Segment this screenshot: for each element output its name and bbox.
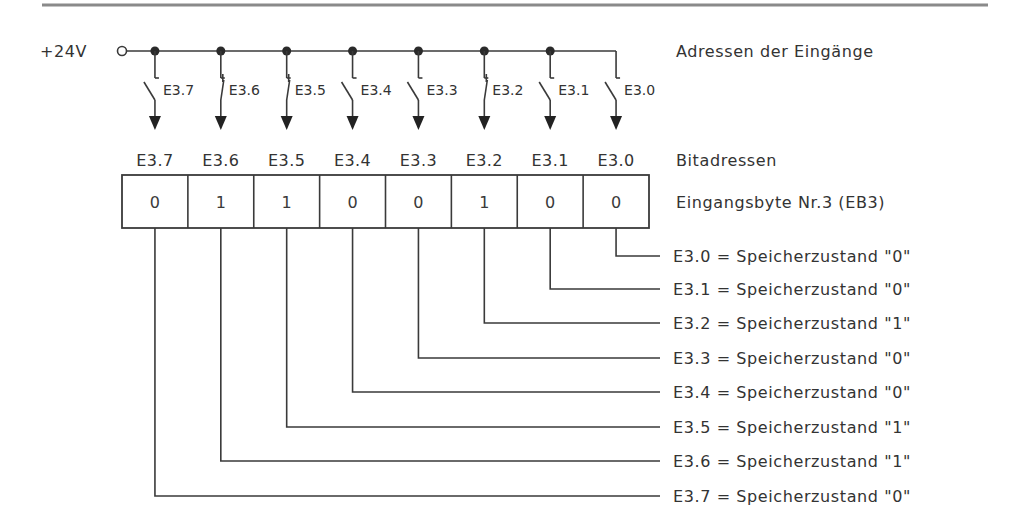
input-addresses-label: Adressen der Eingänge bbox=[676, 42, 874, 61]
bit-state-description: E3.4 = Speicherzustand "0" bbox=[673, 383, 911, 402]
bit-value-cell: 1 bbox=[216, 193, 226, 212]
input-branch-E3-7: E3.7 bbox=[144, 47, 194, 131]
bit-address-label: E3.5 bbox=[268, 151, 305, 170]
input-branch-E3-3: E3.3 bbox=[407, 47, 457, 131]
switch-label: E3.1 bbox=[558, 82, 589, 98]
bit-state-description: E3.3 = Speicherzustand "0" bbox=[673, 349, 911, 368]
switch-label: E3.3 bbox=[426, 82, 457, 98]
arrow-down-icon bbox=[412, 116, 424, 130]
switch-label: E3.6 bbox=[229, 82, 260, 98]
bit-value-cell: 0 bbox=[347, 193, 357, 212]
bit-addresses-label: Bitadressen bbox=[676, 151, 777, 170]
bit-address-label: E3.1 bbox=[532, 151, 569, 170]
bit-state-description: E3.0 = Speicherzustand "0" bbox=[673, 247, 911, 266]
switch-label: E3.7 bbox=[163, 82, 194, 98]
bit-address-label: E3.4 bbox=[334, 151, 371, 170]
bit-address-label: E3.0 bbox=[597, 151, 634, 170]
switch-label: E3.2 bbox=[492, 82, 523, 98]
bit-value-cell: 0 bbox=[611, 193, 621, 212]
switch-label: E3.4 bbox=[361, 82, 392, 98]
input-branch-E3-4: E3.4 bbox=[342, 47, 392, 131]
arrow-down-icon bbox=[610, 116, 622, 130]
bit-address-label: E3.7 bbox=[136, 151, 173, 170]
switch-closed-icon bbox=[221, 80, 224, 100]
input-byte-label: Eingangsbyte Nr.3 (EB3) bbox=[676, 193, 885, 212]
arrow-down-icon bbox=[347, 116, 359, 130]
arrow-down-icon bbox=[215, 116, 227, 130]
input-branch-E3-6: E3.6 bbox=[215, 47, 260, 131]
arrow-down-icon bbox=[149, 116, 161, 130]
switch-open-icon bbox=[342, 82, 353, 100]
bit-state-description: E3.6 = Speicherzustand "1" bbox=[673, 452, 911, 471]
input-branch-E3-1: E3.1 bbox=[539, 47, 589, 131]
switch-closed-icon bbox=[484, 80, 487, 100]
arrow-down-icon bbox=[478, 116, 490, 130]
supply-label: +24V bbox=[40, 42, 87, 61]
switch-open-icon bbox=[144, 82, 155, 100]
arrow-down-icon bbox=[544, 116, 556, 130]
input-branch-E3-0: E3.0 bbox=[605, 51, 655, 130]
input-branch-E3-2: E3.2 bbox=[478, 47, 523, 131]
bit-address-label: E3.2 bbox=[466, 151, 503, 170]
bit-value-cell: 0 bbox=[413, 193, 423, 212]
bit-state-row: E3.0 = Speicherzustand "0" bbox=[616, 228, 911, 266]
bit-value-cell: 0 bbox=[545, 193, 555, 212]
switch-open-icon bbox=[539, 82, 550, 100]
switch-closed-icon bbox=[287, 80, 290, 100]
bit-value-cell: 1 bbox=[282, 193, 292, 212]
bit-address-label: E3.3 bbox=[400, 151, 437, 170]
switch-label: E3.0 bbox=[624, 82, 655, 98]
switch-open-icon bbox=[605, 82, 616, 100]
bit-value-cell: 1 bbox=[479, 193, 489, 212]
input-byte-diagram: +24V Adressen der Eingänge Bitadressen E… bbox=[0, 0, 1032, 525]
input-branch-E3-5: E3.5 bbox=[281, 47, 326, 131]
bit-state-description: E3.2 = Speicherzustand "1" bbox=[673, 314, 911, 333]
bit-state-description: E3.7 = Speicherzustand "0" bbox=[673, 487, 911, 506]
switch-label: E3.5 bbox=[295, 82, 326, 98]
bit-state-description: E3.1 = Speicherzustand "0" bbox=[673, 280, 911, 299]
switch-open-icon bbox=[407, 82, 418, 100]
bit-address-label: E3.6 bbox=[202, 151, 239, 170]
bit-value-cell: 0 bbox=[150, 193, 160, 212]
bit-state-description: E3.5 = Speicherzustand "1" bbox=[673, 418, 911, 437]
arrow-down-icon bbox=[281, 116, 293, 130]
supply-terminal-icon bbox=[118, 47, 127, 56]
